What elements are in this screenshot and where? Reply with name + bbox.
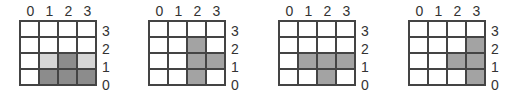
grid-cell-r3-c3 — [78, 22, 97, 38]
grid-cell-r3-c2 — [188, 22, 207, 38]
grid-cell-r1-c1 — [40, 54, 59, 70]
grid-cell-r0-c3 — [337, 70, 356, 86]
row-label: 0 — [102, 76, 110, 94]
row-label: 3 — [491, 22, 499, 40]
grid-cell-r0-c2 — [448, 70, 467, 86]
grid-cell-r2-c1 — [169, 38, 188, 54]
grid-cell-r1-c3 — [337, 54, 356, 70]
grid-cell-r1-c3 — [207, 54, 226, 70]
grid-cell-r3-c2 — [318, 22, 337, 38]
column-label: 1 — [299, 3, 318, 19]
grid-cell-r1-c2 — [318, 54, 337, 70]
grid-cell-r2-c2 — [318, 38, 337, 54]
grid-cell-r3-c1 — [40, 22, 59, 38]
grid-cell-r2-c1 — [299, 38, 318, 54]
grid-cell-r0-c0 — [410, 70, 429, 86]
row-label: 3 — [102, 22, 110, 40]
grid-panel-3: 01233210 — [278, 0, 398, 99]
grid-cell-r0-c2 — [318, 70, 337, 86]
grid-cell-r2-c3 — [337, 38, 356, 54]
row-label: 2 — [491, 40, 499, 58]
row-label: 2 — [231, 40, 239, 58]
column-label: 3 — [467, 3, 486, 19]
grid-cell-r3-c2 — [448, 22, 467, 38]
grid — [148, 20, 226, 86]
grid-cell-r1-c3 — [78, 54, 97, 70]
grid-cell-r1-c1 — [429, 54, 448, 70]
row-label: 2 — [102, 40, 110, 58]
grid-cell-r0-c1 — [40, 70, 59, 86]
grid-cell-r1-c1 — [299, 54, 318, 70]
grid-cell-r0-c1 — [299, 70, 318, 86]
grid-cell-r1-c2 — [59, 54, 78, 70]
grid-cell-r3-c1 — [169, 22, 188, 38]
grid-cell-r2-c0 — [150, 38, 169, 54]
grid — [408, 20, 486, 86]
row-labels: 3210 — [361, 22, 369, 94]
row-label: 1 — [361, 58, 369, 76]
grid-cell-r0-c0 — [21, 70, 40, 86]
column-label: 2 — [448, 3, 467, 19]
grid-cell-r3-c0 — [280, 22, 299, 38]
grid-cell-r0-c3 — [78, 70, 97, 86]
column-label: 0 — [410, 3, 429, 19]
grid-cell-r1-c2 — [448, 54, 467, 70]
grid-cell-r0-c0 — [150, 70, 169, 86]
grid-cell-r2-c0 — [280, 38, 299, 54]
grid-cell-r3-c0 — [410, 22, 429, 38]
grid-cell-r0-c1 — [169, 70, 188, 86]
grid-cell-r1-c2 — [188, 54, 207, 70]
grid-cell-r0-c3 — [467, 70, 486, 86]
row-label: 3 — [231, 22, 239, 40]
column-label: 2 — [188, 3, 207, 19]
grid-cell-r2-c1 — [429, 38, 448, 54]
grid-cell-r1-c1 — [169, 54, 188, 70]
grid-cell-r2-c3 — [207, 38, 226, 54]
grid-cell-r0-c0 — [280, 70, 299, 86]
grid-cell-r3-c1 — [299, 22, 318, 38]
grid-cell-r3-c0 — [21, 22, 40, 38]
grid-panel-1: 01233210 — [19, 0, 139, 99]
grid-cell-r0-c3 — [207, 70, 226, 86]
grid-cell-r2-c2 — [448, 38, 467, 54]
grid-cell-r0-c2 — [59, 70, 78, 86]
grid-cell-r3-c1 — [429, 22, 448, 38]
grid-cell-r3-c3 — [337, 22, 356, 38]
grid-cell-r0-c2 — [188, 70, 207, 86]
grid-cell-r2-c2 — [59, 38, 78, 54]
grid-cell-r3-c0 — [150, 22, 169, 38]
grid-cell-r0-c1 — [429, 70, 448, 86]
grid-cell-r2-c1 — [40, 38, 59, 54]
grid-cell-r3-c2 — [59, 22, 78, 38]
row-labels: 3210 — [231, 22, 239, 94]
column-label: 1 — [169, 3, 188, 19]
grid — [278, 20, 356, 86]
column-label: 0 — [280, 3, 299, 19]
grid-cell-r1-c3 — [467, 54, 486, 70]
grid-cell-r1-c0 — [280, 54, 299, 70]
grid-panel-2: 01233210 — [148, 0, 268, 99]
grid — [19, 20, 97, 86]
grid-cell-r1-c0 — [21, 54, 40, 70]
column-label: 1 — [40, 3, 59, 19]
row-labels: 3210 — [102, 22, 110, 94]
column-label: 2 — [59, 3, 78, 19]
grid-panel-4: 01233210 — [408, 0, 512, 99]
row-label: 1 — [491, 58, 499, 76]
grid-cell-r1-c0 — [150, 54, 169, 70]
column-label: 0 — [150, 3, 169, 19]
grid-cell-r2-c2 — [188, 38, 207, 54]
row-label: 0 — [361, 76, 369, 94]
row-label: 3 — [361, 22, 369, 40]
row-label: 1 — [102, 58, 110, 76]
grid-cell-r3-c3 — [467, 22, 486, 38]
grid-cell-r2-c0 — [21, 38, 40, 54]
column-label: 3 — [337, 3, 356, 19]
grid-cell-r2-c3 — [78, 38, 97, 54]
grid-cell-r3-c3 — [207, 22, 226, 38]
column-label: 3 — [207, 3, 226, 19]
column-label: 2 — [318, 3, 337, 19]
row-label: 0 — [491, 76, 499, 94]
row-label: 1 — [231, 58, 239, 76]
column-label: 1 — [429, 3, 448, 19]
